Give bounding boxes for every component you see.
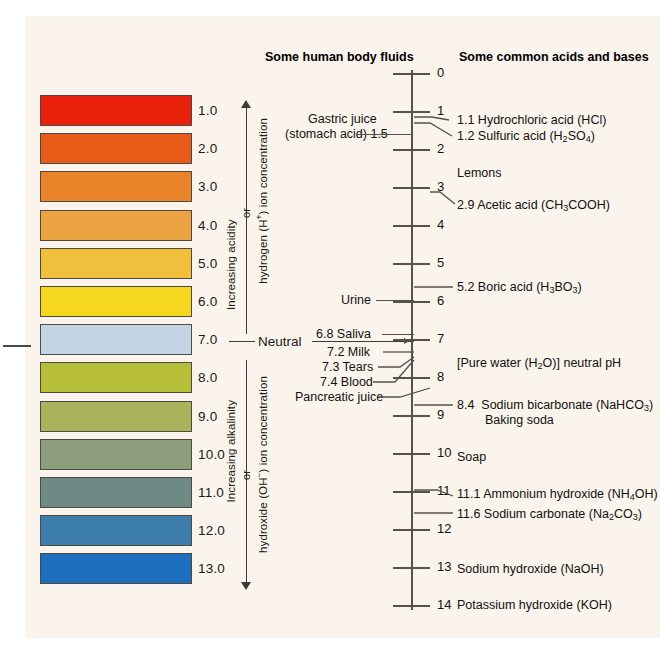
axis-tick-right-13 bbox=[412, 567, 430, 569]
axis-number-12: 12 bbox=[437, 521, 451, 536]
axis-tick-left-4 bbox=[393, 225, 413, 227]
axis-tick-left-0 bbox=[393, 73, 413, 75]
axis-number-13: 13 bbox=[437, 559, 451, 574]
axis-tick-left-1 bbox=[393, 111, 413, 113]
milk-label: 7.2 Milk bbox=[327, 345, 370, 359]
increasing-alkalinity-arrow-icon bbox=[241, 582, 251, 590]
axis-tick-left-14 bbox=[393, 605, 413, 607]
urine-leader-line bbox=[376, 300, 414, 301]
urine-label: Urine bbox=[341, 293, 371, 307]
neutral-connector-line bbox=[312, 341, 414, 342]
alkalinity-or-label: or bbox=[240, 470, 252, 480]
axis-number-3: 3 bbox=[437, 179, 444, 194]
neutral-label: Neutral bbox=[258, 334, 302, 349]
ph-value-12: 12.0 bbox=[198, 523, 225, 538]
ph-swatch-12 bbox=[40, 515, 192, 546]
axis-tick-right-7 bbox=[412, 339, 430, 341]
gastric-juice-leader-line bbox=[357, 134, 413, 135]
sodium-hydroxide-label: Sodium hydroxide (NaOH) bbox=[457, 562, 604, 576]
sodium-bicarbonate-label: 8.4 Sodium bicarbonate (NaHCO3) bbox=[457, 398, 653, 413]
axis-tick-left-5 bbox=[393, 263, 413, 265]
ph-swatch-1 bbox=[40, 95, 192, 126]
pure-water-label: [Pure water (H2O)] neutral pH bbox=[457, 356, 621, 371]
increasing-acidity-label: Increasing acidity bbox=[225, 135, 237, 310]
ph-swatch-7 bbox=[40, 324, 192, 355]
axis-tick-left-12 bbox=[393, 529, 413, 531]
axis-number-8: 8 bbox=[437, 369, 444, 384]
neutral-swatch-stub bbox=[3, 345, 31, 347]
soap-label: Soap bbox=[457, 450, 486, 464]
ph-value-11: 11.0 bbox=[198, 485, 224, 500]
axis-tick-right-1 bbox=[412, 111, 430, 113]
ph-value-10: 10.0 bbox=[198, 447, 225, 462]
axis-tick-right-4 bbox=[412, 225, 430, 227]
heading-acids-bases: Some common acids and bases bbox=[459, 50, 649, 64]
blood-label: 7.4 Blood bbox=[320, 375, 373, 389]
ph-value-1: 1.0 bbox=[198, 103, 217, 118]
axis-tick-right-2 bbox=[412, 149, 430, 151]
ph-swatch-10 bbox=[40, 439, 192, 470]
baking-soda-label: Baking soda bbox=[485, 413, 554, 427]
ph-value-9: 9.0 bbox=[198, 409, 217, 424]
acidity-or-label: or bbox=[240, 208, 252, 218]
ph-value-4: 4.0 bbox=[198, 218, 217, 233]
axis-number-0: 0 bbox=[437, 65, 444, 80]
hydrogen-ion-concentration-label: hydrogen (H+) ion concentration bbox=[255, 118, 269, 284]
axis-number-10: 10 bbox=[437, 445, 451, 460]
axis-tick-left-7 bbox=[393, 339, 413, 341]
hydroxide-ion-concentration-label: hydroxide (OH−) ion concentration bbox=[255, 376, 269, 553]
tears-label: 7.3 Tears bbox=[322, 360, 373, 374]
axis-tick-right-6 bbox=[412, 301, 430, 303]
acidity-bracket-line bbox=[246, 108, 247, 334]
ph-swatch-8 bbox=[40, 362, 192, 393]
hydrochloric-acid-label: 1.1 Hydrochloric acid (HCl) bbox=[457, 113, 606, 127]
ph-swatch-13 bbox=[40, 553, 192, 584]
ph-value-8: 8.0 bbox=[198, 370, 217, 385]
lemons-label: Lemons bbox=[457, 166, 501, 180]
axis-tick-right-12 bbox=[412, 529, 430, 531]
axis-number-7: 7 bbox=[437, 331, 444, 346]
ph-swatch-6 bbox=[40, 286, 192, 317]
ph-scale-figure: 1.02.03.04.05.06.07.08.09.010.011.012.01… bbox=[0, 0, 660, 654]
axis-tick-right-10 bbox=[412, 453, 430, 455]
gastric-juice-label-line1: Gastric juice bbox=[308, 112, 377, 126]
axis-tick-left-2 bbox=[393, 149, 413, 151]
ph-value-6: 6.0 bbox=[198, 294, 217, 309]
ph-swatch-4 bbox=[40, 210, 192, 241]
ph-value-2: 2.0 bbox=[198, 141, 217, 156]
axis-number-2: 2 bbox=[437, 141, 444, 156]
axis-tick-left-8 bbox=[393, 377, 413, 379]
axis-tick-left-11 bbox=[393, 491, 413, 493]
axis-number-11: 11 bbox=[437, 483, 451, 498]
axis-tick-right-9 bbox=[412, 415, 430, 417]
axis-tick-right-8 bbox=[412, 377, 430, 379]
axis-number-6: 6 bbox=[437, 293, 444, 308]
sodium-carbonate-label: 11.6 Sodium carbonate (Na2CO3) bbox=[457, 507, 642, 522]
increasing-acidity-arrow-icon bbox=[241, 100, 251, 108]
axis-tick-left-9 bbox=[393, 415, 413, 417]
acetic-acid-label: 2.9 Acetic acid (CH3COOH) bbox=[457, 198, 610, 213]
axis-number-14: 14 bbox=[437, 597, 451, 612]
axis-tick-right-5 bbox=[412, 263, 430, 265]
axis-number-1: 1 bbox=[437, 103, 444, 118]
ph-swatch-11 bbox=[40, 477, 192, 508]
axis-tick-right-14 bbox=[412, 605, 430, 607]
ammonium-hydroxide-label: 11.1 Ammonium hydroxide (NH4OH) bbox=[457, 487, 658, 502]
axis-tick-right-0 bbox=[412, 73, 430, 75]
sulfuric-acid-label: 1.2 Sulfuric acid (H2SO4) bbox=[457, 129, 595, 144]
heading-body-fluids: Some human body fluids bbox=[265, 50, 414, 64]
ph-swatch-9 bbox=[40, 401, 192, 432]
axis-number-4: 4 bbox=[437, 217, 444, 232]
ph-swatch-3 bbox=[40, 171, 192, 202]
axis-tick-left-3 bbox=[393, 187, 413, 189]
hydroxide-ion-text: hydroxide (OH−) ion concentration bbox=[257, 376, 269, 553]
axis-tick-right-3 bbox=[412, 187, 430, 189]
neutral-left-dash bbox=[229, 341, 255, 342]
hydrogen-ion-text: hydrogen (H+) ion concentration bbox=[257, 118, 269, 284]
saliva-leader-line bbox=[382, 334, 414, 335]
ph-swatch-2 bbox=[40, 133, 192, 164]
pancreatic-juice-label: Pancreatic juice bbox=[295, 390, 383, 404]
ph-value-5: 5.0 bbox=[198, 256, 217, 271]
saliva-label: 6.8 Saliva bbox=[316, 327, 371, 341]
increasing-alkalinity-label: Increasing alkalinity bbox=[225, 400, 237, 502]
